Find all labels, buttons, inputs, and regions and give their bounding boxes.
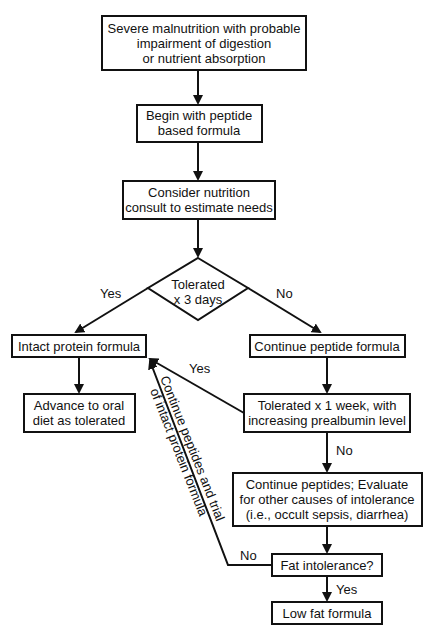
node-tolerated-week-line-2: increasing prealbumin level	[248, 413, 406, 428]
label-fat-yes: Yes	[336, 582, 358, 597]
node-low-fat: Low fat formula	[272, 602, 382, 624]
node-advance-oral-line-2: diet as tolerated	[33, 413, 126, 428]
node-continue-peptide-label: Continue peptide formula	[254, 339, 400, 354]
node-tolerated-week-line-1: Tolerated x 1 week, with	[258, 398, 397, 413]
node-fat-intolerance-label: Fat intolerance?	[280, 558, 373, 573]
node-evaluate: Continue peptides; Evaluate for other ca…	[233, 473, 422, 526]
node-advance-oral-line-1: Advance to oral	[34, 398, 124, 413]
label-fat-no: No	[240, 548, 257, 563]
node-start: Severe malnutrition with probable impair…	[102, 16, 306, 70]
label-week-no: No	[336, 443, 353, 458]
node-advance-oral: Advance to oral diet as tolerated	[24, 394, 135, 432]
node-peptide-begin-line-2: based formula	[158, 123, 241, 138]
decision-line-1: Tolerated	[171, 277, 224, 292]
node-intact-protein: Intact protein formula	[12, 335, 146, 357]
node-evaluate-line-2: for other causes of intolerance	[240, 492, 415, 507]
node-intact-protein-label: Intact protein formula	[18, 339, 141, 354]
node-start-line-1: Severe malnutrition with probable	[108, 21, 301, 36]
node-continue-peptide: Continue peptide formula	[250, 335, 405, 357]
node-fat-intolerance: Fat intolerance?	[272, 554, 382, 576]
node-evaluate-line-3: (i.e., occult sepsis, diarrhea)	[246, 507, 409, 522]
label-decision-no: No	[276, 286, 293, 301]
node-consult-line-1: Consider nutrition	[148, 185, 250, 200]
decision-line-2: x 3 days	[174, 292, 223, 307]
node-low-fat-label: Low fat formula	[283, 606, 373, 621]
node-start-line-2: impairment of digestion	[137, 36, 271, 51]
node-evaluate-line-1: Continue peptides; Evaluate	[246, 477, 409, 492]
label-decision-yes: Yes	[100, 286, 122, 301]
node-consult-line-2: consult to estimate needs	[125, 200, 273, 215]
node-consult: Consider nutrition consult to estimate n…	[123, 181, 275, 219]
node-tolerated-week: Tolerated x 1 week, with increasing prea…	[244, 394, 410, 432]
decision-tolerated-3-days: Tolerated x 3 days	[148, 258, 248, 320]
flowchart: Severe malnutrition with probable impair…	[0, 0, 432, 634]
node-start-line-3: or nutrient absorption	[143, 51, 266, 66]
node-peptide-begin-line-1: Begin with peptide	[146, 108, 252, 123]
label-week-yes: Yes	[189, 361, 211, 376]
node-peptide-begin: Begin with peptide based formula	[137, 105, 262, 142]
